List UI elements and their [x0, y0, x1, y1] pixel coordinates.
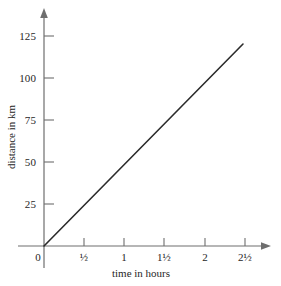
origin-tick-label: 0	[35, 252, 41, 263]
x-axis-title: time in hours	[112, 268, 170, 279]
y-tick-label-125: 125	[6, 31, 36, 42]
x-tick-label-1: 1	[121, 252, 127, 263]
x-axis-ticks	[84, 238, 245, 246]
data-line-distance	[44, 44, 243, 246]
x-tick-label-half: ½	[80, 252, 88, 263]
x-tick-label-2: 2	[202, 252, 208, 263]
y-tick-label-25: 25	[6, 199, 36, 210]
x-tick-label-2-half: 2½	[238, 252, 252, 263]
y-axis-ticks	[44, 36, 54, 204]
plot-area	[0, 0, 281, 286]
y-axis-title: distance in km	[6, 105, 17, 169]
x-tick-label-1-half: 1½	[157, 252, 171, 263]
line-chart-figure: 125 100 75 50 25 0 ½ 1 1½ 2 2½ time in h…	[0, 0, 281, 286]
y-tick-label-100: 100	[6, 73, 36, 84]
